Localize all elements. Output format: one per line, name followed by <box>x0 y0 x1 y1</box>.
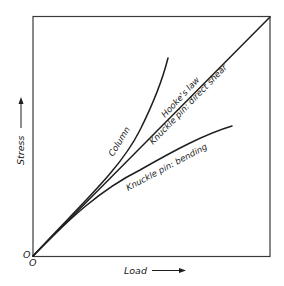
column-label: Column <box>106 125 132 158</box>
origin-x-label: O <box>29 257 37 268</box>
stress-load-diagram: Column Hooke's law Knuckle pin: direct s… <box>0 0 284 286</box>
y-axis-arrow-icon <box>19 97 24 104</box>
column-curve <box>33 58 168 256</box>
x-axis-arrow-icon <box>179 268 186 273</box>
knuckle-pin-bending-label: Knuckle pin: bending <box>124 141 209 193</box>
x-axis-label: Load <box>124 265 148 276</box>
knuckle-pin-direct-shear-label: Knuckle pin: direct shear <box>147 62 229 146</box>
y-axis-label: Stress <box>15 136 26 165</box>
